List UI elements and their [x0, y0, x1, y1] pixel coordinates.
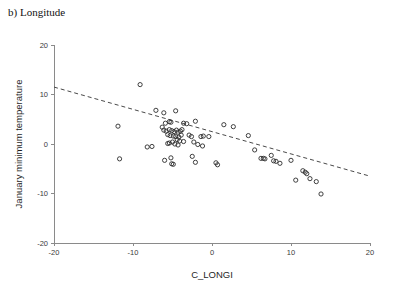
data-point: [150, 144, 154, 148]
data-point: [138, 83, 142, 87]
data-point: [163, 158, 167, 162]
data-point: [193, 160, 197, 164]
data-point: [314, 180, 318, 184]
y-tick-label: -20: [37, 239, 48, 248]
data-point: [294, 178, 298, 182]
x-axis-ticks: -20-1001020: [49, 243, 375, 257]
data-point: [174, 109, 178, 113]
x-axis-title: C_LONGI: [191, 269, 233, 280]
x-tick-label: -20: [49, 248, 60, 257]
data-point: [319, 192, 323, 196]
data-point: [192, 140, 196, 144]
data-point: [200, 144, 204, 148]
data-point: [231, 125, 235, 129]
data-point: [253, 148, 257, 152]
data-point: [222, 123, 226, 127]
y-axis-title: January minimum temperature: [13, 80, 24, 209]
data-point: [116, 124, 120, 128]
data-point: [145, 145, 149, 149]
data-point: [190, 154, 194, 158]
data-point: [196, 142, 200, 146]
y-tick-label: 0: [44, 140, 48, 149]
data-point: [162, 111, 166, 115]
data-point: [289, 158, 293, 162]
data-point: [154, 108, 158, 112]
data-point: [246, 133, 250, 137]
data-point: [207, 134, 211, 138]
data-point: [169, 156, 173, 160]
x-tick-label: 0: [210, 248, 214, 257]
figure-root: b) Longitude -20-1001020 -20-1001020 Jan…: [0, 0, 394, 299]
x-tick-label: 10: [287, 248, 295, 257]
data-point: [163, 121, 167, 125]
data-point: [117, 157, 121, 161]
trend-line-group: [54, 87, 370, 176]
y-tick-label: 10: [40, 90, 48, 99]
y-axis-ticks: -20-1001020: [37, 41, 54, 248]
data-point: [193, 119, 197, 123]
data-point: [308, 177, 312, 181]
trend-line: [54, 87, 370, 176]
scatter-plot: -20-1001020 -20-1001020 January minimum …: [0, 0, 394, 299]
y-tick-label: -10: [37, 189, 48, 198]
data-point: [269, 153, 273, 157]
x-tick-label: 20: [366, 248, 374, 257]
data-point: [278, 161, 282, 165]
x-tick-label: -10: [128, 248, 139, 257]
y-tick-label: 20: [40, 41, 48, 50]
data-points-group: [116, 83, 323, 197]
